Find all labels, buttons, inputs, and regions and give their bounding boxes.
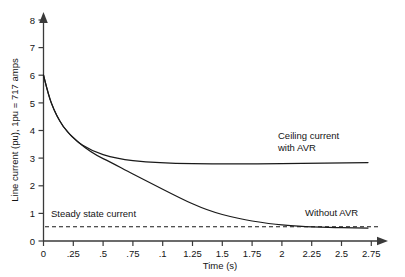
ceiling-current-label-line1: Ceiling current <box>278 130 340 141</box>
y-axis-title: Line current (pu), 1pu = 717 amps <box>9 58 20 202</box>
x-tick-label-2: .5 <box>99 248 107 259</box>
y-tick-label-4: 4 <box>30 125 35 136</box>
steady-state-label: Steady state current <box>51 208 136 219</box>
series-ceiling-current-with-avr <box>44 75 369 164</box>
x-tick-label-11: 2.75 <box>362 248 381 259</box>
x-tick-label-0: 0 <box>41 248 46 259</box>
x-tick-label-6: 1.5 <box>216 248 229 259</box>
series-without-avr <box>44 75 369 228</box>
y-tick-label-7: 7 <box>30 42 35 53</box>
without-avr-label: Without AVR <box>305 207 358 218</box>
x-axis-ticks <box>44 241 372 246</box>
y-tick-label-0: 0 <box>30 236 35 247</box>
y-tick-label-2: 2 <box>30 180 35 191</box>
x-axis-arrow-icon <box>377 237 388 245</box>
x-tick-label-4: .1 <box>159 248 167 259</box>
y-tick-label-8: 8 <box>30 15 35 26</box>
ceiling-current-label-line2: with AVR <box>277 142 316 153</box>
y-axis-arrow-icon <box>39 12 48 23</box>
chart-figure: 0 1 2 3 4 5 6 7 8 0 .25 .5 .75 .1 1.25 <box>0 0 405 277</box>
line-chart-canvas: 0 1 2 3 4 5 6 7 8 0 .25 .5 .75 .1 1.25 <box>0 0 405 277</box>
x-tick-label-9: 2.25 <box>302 248 321 259</box>
x-tick-label-8: 2 <box>279 248 284 259</box>
x-tick-label-3: .75 <box>126 248 139 259</box>
y-tick-label-3: 3 <box>30 153 35 164</box>
x-tick-label-7: 1.75 <box>243 248 262 259</box>
y-axis-ticks <box>39 20 44 241</box>
x-axis-title: Time (s) <box>203 260 237 271</box>
x-tick-label-1: .25 <box>67 248 80 259</box>
y-tick-label-6: 6 <box>30 70 35 81</box>
x-tick-label-5: 1.25 <box>183 248 202 259</box>
x-tick-label-10: 2.5 <box>335 248 348 259</box>
y-tick-label-5: 5 <box>30 98 35 109</box>
y-tick-label-1: 1 <box>30 208 35 219</box>
